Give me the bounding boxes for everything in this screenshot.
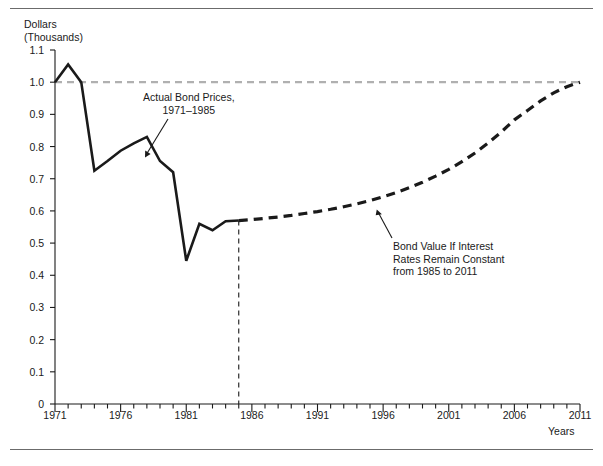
x-axis-tick-label: 2001: [437, 409, 460, 421]
y-axis-tick-label: 1.0: [18, 76, 44, 88]
data-series-group: [55, 64, 580, 260]
y-axis-tick-label: 0.8: [18, 141, 44, 153]
actual-bond-prices-series: [55, 64, 239, 260]
x-axis-tick-label: 1981: [175, 409, 198, 421]
x-axis-tick-label: 1991: [306, 409, 329, 421]
annotation-leader-group: [145, 119, 392, 238]
leader-line-forecast: [378, 212, 392, 238]
x-axis-tick-label: 1996: [371, 409, 394, 421]
y-axis-tick-label: 0.3: [18, 301, 44, 313]
x-axis-tick-label: 2006: [503, 409, 526, 421]
x-axis-tick-label: 1976: [109, 409, 132, 421]
y-axis-tick-label: 0.2: [18, 334, 44, 346]
forecast-line-series: [239, 82, 580, 220]
leader-line-actual: [146, 119, 168, 155]
y-axis-tick-label: 1.1: [18, 44, 44, 56]
x-axis-tick-label: 1971: [43, 409, 66, 421]
y-axis-tick-label: 0.4: [18, 269, 44, 281]
y-axis-tick-label: 0.1: [18, 366, 44, 378]
y-axis-tick-label: 0.9: [18, 108, 44, 120]
x-axis-tick-label: 1986: [240, 409, 263, 421]
y-axis-tick-label: 0.6: [18, 205, 44, 217]
axis-group: [50, 50, 580, 412]
y-axis-tick-label: 0.7: [18, 173, 44, 185]
reference-line-group: [55, 82, 580, 404]
bond-price-chart-figure: Dollars (Thousands) Years Actual Bond Pr…: [0, 0, 603, 466]
x-axis-tick-label: 2011: [569, 409, 592, 421]
arrowhead-forecast: [376, 210, 382, 216]
y-axis-tick-label: 0.5: [18, 237, 44, 249]
y-axis-tick-label: 0: [18, 398, 44, 410]
plot-area: [0, 0, 603, 466]
